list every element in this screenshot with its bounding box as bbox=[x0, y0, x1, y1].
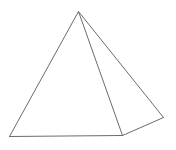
edge-apex-front-left bbox=[10, 12, 79, 137]
edge-base-front bbox=[10, 136, 123, 137]
edge-base-right bbox=[123, 118, 164, 136]
pyramid-svg bbox=[0, 0, 176, 150]
edge-apex-front-right bbox=[79, 12, 123, 136]
edge-apex-back-right bbox=[79, 12, 164, 118]
pyramid-diagram bbox=[0, 0, 176, 150]
